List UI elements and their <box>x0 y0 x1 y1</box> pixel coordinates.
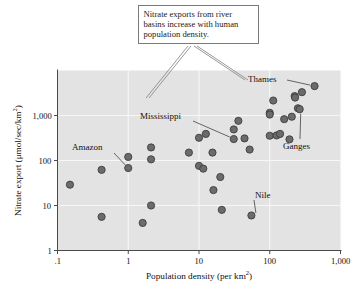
y-tick-label: 1,000 <box>33 111 52 121</box>
annotation-label-nile: Nile <box>255 190 271 200</box>
x-tick-label: .1 <box>55 256 61 266</box>
data-point-amazon <box>125 164 132 171</box>
data-point <box>195 134 202 141</box>
annotation-label-mississippi: Mississippi <box>140 111 181 121</box>
data-point-mississippi <box>230 135 237 142</box>
y-axis-title: Nitrate export (μmol/sec/km2) <box>13 105 23 216</box>
data-point <box>202 130 209 137</box>
y-tick-label: 10 <box>43 201 52 211</box>
annotation-label-thames: Thames <box>248 74 277 84</box>
data-point <box>185 149 192 156</box>
data-point <box>147 202 154 209</box>
x-tick-label: 100 <box>263 256 276 266</box>
callout-box-outline <box>139 6 259 44</box>
data-point <box>266 132 273 139</box>
data-point <box>270 97 277 104</box>
data-point-thames <box>311 83 318 90</box>
data-point <box>209 149 216 156</box>
data-point <box>298 89 305 96</box>
data-point <box>217 173 224 180</box>
data-point <box>288 113 295 120</box>
data-point-ganges <box>296 106 303 113</box>
data-point <box>147 144 154 151</box>
x-tick-label: 1,000 <box>331 256 350 266</box>
x-axis-title: Population density (per km2) <box>146 271 252 281</box>
nitrate-export-scatter-figure: Nitrate exports from river basins increa… <box>0 0 351 296</box>
annotation-label-amazon: Amazon <box>72 142 103 152</box>
x-tick-label: 10 <box>195 256 204 266</box>
data-point <box>281 116 288 123</box>
annotation-label-ganges: Ganges <box>283 141 310 151</box>
data-point <box>147 156 154 163</box>
data-point <box>125 153 132 160</box>
x-tick-label: 1 <box>126 256 130 266</box>
data-point <box>98 213 105 220</box>
data-point <box>241 135 248 142</box>
data-point <box>230 126 237 133</box>
data-point <box>218 206 225 213</box>
data-point-nile <box>248 212 255 219</box>
y-tick-label: 100 <box>39 156 52 166</box>
data-point <box>266 111 273 118</box>
data-point <box>139 219 146 226</box>
data-point <box>291 94 298 101</box>
data-point <box>98 166 105 173</box>
y-tick-label: 1 <box>48 246 52 256</box>
data-point <box>210 186 217 193</box>
data-point <box>66 181 73 188</box>
data-point <box>235 117 242 124</box>
data-point <box>200 165 207 172</box>
data-point <box>246 146 253 153</box>
data-point <box>276 130 283 137</box>
